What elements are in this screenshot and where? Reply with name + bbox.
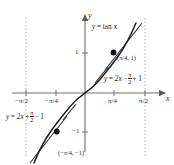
y-axis-label: y [88, 12, 92, 20]
x-tick-label-neg-half-pi: −π/2 [15, 98, 28, 105]
tangent-right-equation-label: y = 2x −π2+ 1 [104, 72, 142, 86]
tangent-right-const: 1 [138, 75, 142, 83]
x-tick-neg-quarter-pi-text: −π/4 [45, 97, 58, 105]
tangent-line-graph-figure: y x −π/2 −π/4 π/4 π/2 1 −1 y = tan x (π/… [0, 0, 174, 165]
tangent-left-op2: − [34, 113, 38, 121]
curve-eq-lhs: y [92, 23, 95, 31]
tangent-left-frac-den: 2 [30, 117, 34, 124]
tangent-right-lhs: y [104, 75, 107, 83]
y-tick-label-one: 1 [75, 49, 79, 56]
curve-eq-rhs: tan x [103, 23, 117, 31]
curve-eq-sign: = [97, 23, 101, 31]
graph-canvas [0, 0, 174, 165]
tangent-left-eqsign: = [11, 113, 15, 121]
x-tick-half-pi-text: π/2 [139, 97, 148, 105]
x-tick-neg-half-pi-text: −π/2 [15, 97, 28, 105]
x-axis-label: x [166, 95, 170, 103]
tangent-right-eqsign: = [109, 75, 113, 83]
tangent-right-op2: + [132, 75, 136, 83]
x-tick-label-half-pi: π/2 [139, 98, 148, 105]
point-label-upper: (π/4, 1) [117, 55, 136, 61]
tangent-right-frac-den: 2 [128, 79, 132, 86]
tangent-right-fraction: π2 [128, 72, 132, 86]
point-marker-upper [111, 50, 117, 56]
tangent-left-const: 1 [40, 113, 44, 121]
tangent-left-coef: 2x [17, 113, 24, 121]
y-tick-label-neg-one: −1 [72, 128, 79, 135]
tangent-left-fraction: π2 [30, 110, 34, 124]
x-axis-arrow [159, 90, 166, 96]
point-marker-lower [54, 129, 60, 135]
x-tick-quarter-pi-text: π/4 [108, 97, 117, 105]
point-label-lower: (−π/4, −1) [58, 150, 84, 156]
tangent-right-coef: 2x [115, 75, 122, 83]
curve-equation-label: y = tan x [92, 24, 117, 31]
tangent-left-equation-label: y = 2x +π2− 1 [6, 110, 44, 124]
x-tick-label-quarter-pi: π/4 [108, 98, 117, 105]
x-tick-label-neg-quarter-pi: −π/4 [45, 98, 58, 105]
tangent-left-lhs: y [6, 113, 9, 121]
